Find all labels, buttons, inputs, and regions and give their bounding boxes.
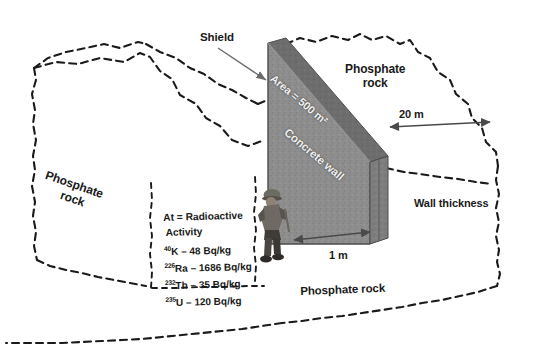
wall-thickness-label: Wall thickness	[414, 197, 489, 210]
isotope-mass-number: 232	[165, 278, 176, 285]
phosphate-rock-top-line1: Phosphate	[345, 62, 405, 76]
dimension-label-20m: 20 m	[399, 108, 424, 121]
activity-dash: –	[188, 279, 199, 290]
activity-header-line2: Activity	[165, 223, 251, 240]
activity-entry: 226Ra – 1686 Bq/kg	[164, 258, 252, 276]
isotope-mass-number: 235	[165, 295, 176, 302]
activity-dash: –	[178, 245, 189, 256]
phosphate-rock-label-top: Phosphate rock	[345, 62, 405, 90]
isotope-mass-number: 226	[164, 261, 175, 268]
isotope-symbol: Th	[175, 279, 188, 290]
activity-list: 40K – 48 Bq/kg226Ra – 1686 Bq/kg232Th – …	[164, 241, 253, 310]
dimension-arrow-20m	[390, 122, 490, 127]
isotope-symbol: Ra	[175, 262, 188, 273]
activity-dash: –	[188, 262, 199, 273]
phosphate-rock-top-line2: rock	[345, 76, 405, 90]
activity-dash: –	[183, 296, 194, 307]
activity-entry: 235U – 120 Bq/kg	[165, 292, 253, 310]
activity-entry: 232Th – 35 Bq/kg	[165, 275, 253, 293]
diagram-canvas: Shield Phosphate rock Phosphate rock Pho…	[0, 0, 536, 359]
activity-value: 1686 Bq/kg	[199, 261, 252, 273]
dimension-label-1m: 1 m	[329, 249, 348, 262]
radioactive-activity-note: At = Radioactive Activity 40K – 48 Bq/kg…	[163, 209, 253, 312]
shield-label: Shield	[200, 31, 234, 45]
activity-header-line1: At = Radioactive	[163, 210, 243, 223]
activity-value: 120 Bq/kg	[194, 295, 242, 307]
shield-leader-arrow	[218, 48, 266, 80]
activity-value: 35 Bq/kg	[199, 278, 241, 290]
activity-value: 48 Bq/kg	[189, 244, 231, 256]
activity-note-header: At = Radioactive Activity	[163, 209, 251, 241]
activity-entry: 40K – 48 Bq/kg	[164, 241, 252, 259]
